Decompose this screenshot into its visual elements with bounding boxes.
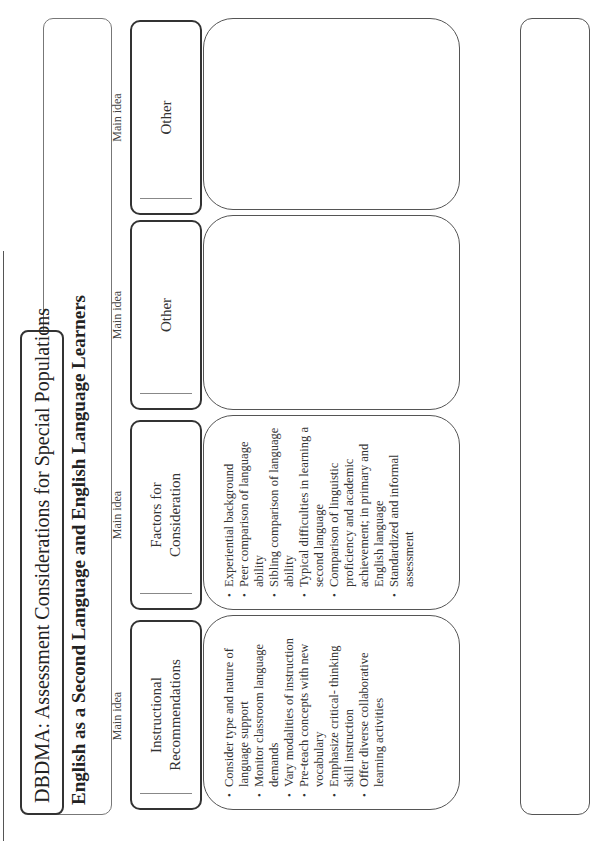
main-idea-label-4: Main idea [110,20,125,215]
column-heading-text: Instructional Recommendations [147,659,185,771]
list-item: Comparison of linguistic proficiency and… [327,426,387,597]
list-item: Typical difficulties in learning a secon… [297,426,327,597]
list-item: Peer comparison of language ability [237,426,267,597]
bullet-list: Experiential background Peer comparison … [222,426,417,597]
bullet-list: Consider type and nature of language sup… [222,626,387,797]
top-rule [3,251,4,841]
column-heading-text: Factors for Consideration [147,473,185,557]
rotated-page: DBDMA: Assessment Considerations for Spe… [0,0,604,841]
column-heading-instructional-recommendations: Instructional Recommendations [130,620,202,810]
column-heading-text: Other [157,100,176,134]
main-idea-label-2: Main idea [110,420,125,610]
column-heading-other-2: Other [130,20,202,215]
list-item: Experiential background [222,426,237,597]
content-box-other-2[interactable] [203,18,460,210]
content-box-instructional-recommendations[interactable]: Consider type and nature of language sup… [203,615,460,810]
list-item: Offer diverse collaborative learning act… [357,626,387,797]
content-box-factors-for-consideration[interactable]: Experiential background Peer comparison … [203,415,460,610]
heading-divider [140,793,192,794]
list-item: Consider type and nature of language sup… [222,626,252,797]
page-subtitle: English as a Second Language and English… [68,295,90,805]
heading-divider [140,393,192,394]
content-box-other-1[interactable] [203,215,460,410]
column-heading-text: Other [157,298,176,332]
column-heading-other-1: Other [130,220,202,410]
list-item: Sibling comparison of language ability [267,426,297,597]
column-heading-factors-for-consideration: Factors for Consideration [130,420,202,610]
heading-divider [140,593,192,594]
list-item: Pre-teach concepts with new vocabulary [297,626,327,797]
main-idea-label-3: Main idea [110,220,125,410]
notes-box[interactable] [520,18,590,815]
list-item: Emphasize critical- thinking skill instr… [327,626,357,797]
list-item: Monitor classroom language demands [252,626,282,797]
heading-divider [140,198,192,199]
main-idea-label-1: Main idea [110,621,125,811]
page-title: DBDMA: Assessment Considerations for Spe… [20,330,64,815]
list-item: Vary modalities of instruction [282,626,297,797]
list-item: Standardized and informal assessment [387,426,417,597]
